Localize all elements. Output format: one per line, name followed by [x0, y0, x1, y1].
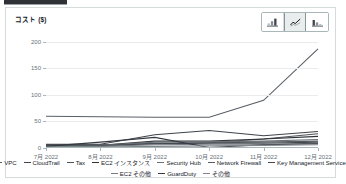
chart-type-toggle-group[interactable] — [261, 12, 329, 32]
y-axis-tick-label: 100 — [31, 92, 41, 98]
y-axis-tick — [43, 121, 46, 122]
y-axis-tick-label: 50 — [34, 118, 41, 124]
line-chart-icon-button[interactable] — [284, 13, 306, 31]
legend-item-label: その他 — [212, 169, 230, 178]
legend-item-label: GuardDuty — [167, 171, 196, 177]
gridline — [46, 121, 318, 122]
legend-item-label: Network Firewall — [217, 160, 261, 166]
legend-swatch — [0, 162, 2, 164]
stacked-bar-chart-icon — [312, 18, 323, 27]
legend-item[interactable]: EC2 インスタンス — [92, 158, 150, 167]
plot-area: 7月 20228月 20229月 202210月 202211月 202212月… — [46, 34, 318, 148]
legend-swatch — [203, 173, 210, 175]
legend-item-label: Security Hub — [166, 160, 200, 166]
y-axis-tick-label: 0 — [38, 145, 41, 151]
legend-item[interactable]: Tax — [67, 158, 85, 167]
legend-item-label: EC2 インスタンス — [101, 158, 150, 167]
cost-chart-card: コスト ($) — [5, 7, 336, 178]
legend-swatch — [158, 173, 165, 175]
legend-swatch — [208, 162, 215, 164]
stacked-bar-chart-icon-button[interactable] — [306, 13, 328, 31]
legend-swatch — [268, 162, 275, 164]
legend-item[interactable]: Key Management Service — [268, 158, 346, 167]
legend-item-label: Tax — [76, 160, 85, 166]
y-axis-tick — [43, 148, 46, 149]
clipped-header-underline — [4, 4, 67, 5]
x-axis-line — [46, 147, 318, 148]
legend-item[interactable]: Network Firewall — [208, 158, 261, 167]
x-axis-tick — [264, 148, 265, 151]
gridline — [46, 42, 318, 43]
gridline — [46, 68, 318, 69]
y-axis-tick-label: 150 — [31, 65, 41, 71]
chart-legend: VPCCloudTrailTaxEC2 インスタンスSecurity HubNe… — [6, 158, 335, 178]
y-axis-title: コスト ($) — [15, 14, 46, 24]
gridline — [46, 95, 318, 96]
bar-chart-icon-button[interactable] — [262, 13, 284, 31]
legend-item[interactable]: VPC — [0, 158, 17, 167]
legend-item-label: CloudTrail — [33, 160, 60, 166]
legend-row-1: VPCCloudTrailTaxEC2 インスタンスSecurity HubNe… — [0, 158, 346, 167]
legend-item[interactable]: その他 — [203, 169, 230, 178]
legend-swatch — [111, 173, 118, 175]
series-line — [46, 49, 318, 117]
series-lines — [46, 34, 318, 148]
legend-item[interactable]: GuardDuty — [158, 169, 196, 178]
legend-row-2: EC2 その他GuardDutyその他 — [111, 169, 230, 178]
legend-swatch — [157, 162, 164, 164]
y-axis-tick — [43, 95, 46, 96]
y-axis-tick-label: 200 — [31, 39, 41, 45]
x-axis-tick — [318, 148, 319, 151]
legend-swatch — [67, 162, 74, 164]
legend-item-label: EC2 その他 — [120, 169, 151, 178]
bar-chart-icon — [267, 18, 278, 27]
x-axis-tick — [46, 148, 47, 151]
legend-swatch — [24, 162, 31, 164]
legend-item[interactable]: Security Hub — [157, 158, 200, 167]
legend-swatch — [92, 162, 99, 164]
x-axis-tick — [155, 148, 156, 151]
x-axis-tick — [100, 148, 101, 151]
legend-item[interactable]: CloudTrail — [24, 158, 60, 167]
x-axis-tick — [209, 148, 210, 151]
line-chart-icon — [290, 18, 301, 27]
y-axis-tick — [43, 42, 46, 43]
legend-item-label: VPC — [4, 160, 16, 166]
legend-item-label: Key Management Service — [277, 160, 346, 166]
legend-item[interactable]: EC2 その他 — [111, 169, 151, 178]
y-axis-tick — [43, 68, 46, 69]
